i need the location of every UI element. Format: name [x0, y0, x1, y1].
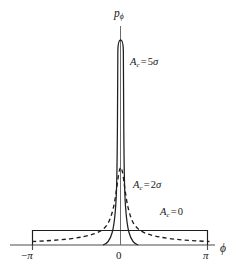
x-tick-label-pi: π	[203, 250, 209, 261]
curve-label-equals: =	[170, 206, 178, 217]
curve-label-value: 0	[178, 206, 183, 217]
x-axis-label-symbol: ϕ	[220, 242, 226, 254]
curve-label-equals: =	[140, 56, 148, 67]
curve-label-unit: σ	[153, 56, 158, 67]
plot-canvas	[0, 0, 238, 270]
x-tick-label-neg-pi: −π	[21, 250, 33, 261]
x-tick-pi-glyph: π	[203, 249, 209, 261]
x-tick-pi-glyph: π	[27, 249, 33, 261]
phase-pdf-figure: pϕ ϕ Ac=5σ Ac=2σ Ac=0 −π 0 π	[0, 0, 238, 270]
x-axis-label: ϕ	[220, 243, 226, 255]
curve-label-unit: σ	[156, 179, 161, 190]
y-axis-label: pϕ	[114, 8, 124, 21]
curve-label-ac-2sigma: Ac=2σ	[133, 180, 161, 192]
x-tick-zero-glyph: 0	[116, 249, 122, 261]
curve-label-ac-0: Ac=0	[160, 207, 183, 219]
curve-label-ac-5sigma: Ac=5σ	[130, 57, 158, 69]
x-tick-label-zero: 0	[116, 250, 122, 261]
curve-label-equals: =	[143, 179, 151, 190]
y-axis-label-subscript: ϕ	[120, 12, 124, 21]
